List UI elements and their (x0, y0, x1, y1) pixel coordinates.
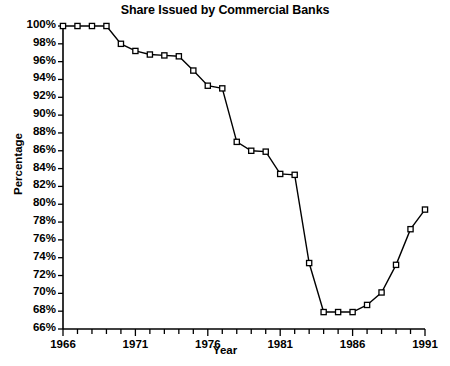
x-axis-ticks (63, 329, 425, 336)
data-point-marker (321, 309, 326, 314)
chart-container: Share Issued by Commercial Banks Percent… (0, 0, 450, 366)
data-point-marker (234, 139, 239, 144)
data-point-marker (393, 262, 398, 267)
data-point-marker (89, 23, 94, 28)
data-point-marker (220, 86, 225, 91)
data-point-marker (364, 302, 369, 307)
data-point-marker (104, 23, 109, 28)
data-point-marker (379, 290, 384, 295)
data-point-marker (292, 172, 297, 177)
data-point-marker (162, 53, 167, 58)
data-point-marker (205, 83, 210, 88)
data-point-marker (147, 52, 152, 57)
data-point-marker (422, 207, 427, 212)
data-point-marker (263, 149, 268, 154)
data-point-marker (133, 48, 138, 53)
data-point-marker (336, 309, 341, 314)
data-point-marker (118, 41, 123, 46)
axes (63, 26, 425, 329)
data-point-marker (60, 23, 65, 28)
data-point-marker (408, 227, 413, 232)
data-series-line (63, 26, 425, 312)
data-point-marker (176, 54, 181, 59)
plot-area (0, 0, 450, 366)
data-point-marker (350, 309, 355, 314)
data-point-markers (60, 23, 427, 314)
data-point-marker (249, 148, 254, 153)
data-point-marker (191, 68, 196, 73)
data-point-marker (278, 171, 283, 176)
data-point-marker (75, 23, 80, 28)
data-point-marker (307, 260, 312, 265)
